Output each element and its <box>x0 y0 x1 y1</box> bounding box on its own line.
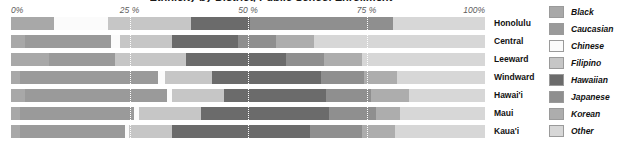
legend-label: Chinese <box>571 41 604 51</box>
bar-segment <box>286 53 324 66</box>
legend-swatch-icon <box>549 6 564 18</box>
bar-segment <box>165 71 212 84</box>
bar-segment <box>201 107 329 120</box>
chart-title: Ethnicity by District, Public School Enr… <box>150 0 410 2</box>
bar-segment <box>376 107 400 120</box>
gridline-50 <box>248 17 249 138</box>
bar-segment <box>11 125 20 138</box>
legend-label: Black <box>571 7 594 17</box>
bar-segment <box>49 53 115 66</box>
bar-segment <box>120 35 172 48</box>
legend: BlackCaucasianChineseFilipinoHawaiianJap… <box>549 3 625 139</box>
bar-segment <box>371 89 409 102</box>
legend-label: Other <box>571 126 594 136</box>
bar-segment <box>11 107 20 120</box>
bar-segment <box>158 71 165 84</box>
bar-segment <box>139 107 201 120</box>
bar-segment <box>191 17 250 30</box>
bar-segment <box>54 17 109 30</box>
legend-label: Caucasian <box>571 24 614 34</box>
legend-swatch-icon <box>549 40 564 52</box>
legend-label: Filipino <box>571 58 601 68</box>
bar-segment <box>20 71 157 84</box>
bar-segment <box>250 17 392 30</box>
bar-segment <box>25 35 110 48</box>
bar-segment <box>172 125 309 138</box>
plot-area: 0% 25 % 50 % 75 % 100% <box>11 16 485 143</box>
legend-swatch-icon <box>549 57 564 69</box>
bar-segment <box>11 89 25 102</box>
row-label: Hawai'i <box>494 89 523 102</box>
stacked-bar-chart: Ethnicity by District, Public School Enr… <box>0 0 625 146</box>
legend-item[interactable]: Hawaiian <box>549 71 625 88</box>
bar-segment <box>409 89 485 102</box>
bar-segment <box>329 107 376 120</box>
bar-segment <box>20 125 124 138</box>
axis-tick-100: 100% <box>463 5 485 15</box>
bar-segment <box>238 35 276 48</box>
row-label: Leeward <box>494 53 529 66</box>
bar-segment <box>11 17 54 30</box>
legend-item[interactable]: Japanese <box>549 88 625 105</box>
bar-segment <box>11 53 49 66</box>
legend-swatch-icon <box>549 74 564 86</box>
legend-item[interactable]: Black <box>549 3 625 20</box>
legend-item[interactable]: Filipino <box>549 54 625 71</box>
bar-segment <box>321 71 364 84</box>
bar-segment <box>224 89 326 102</box>
gridline-75 <box>367 17 368 138</box>
legend-item[interactable]: Caucasian <box>549 20 625 37</box>
legend-swatch-icon <box>549 108 564 120</box>
axis-tick-75: 75 % <box>357 5 376 15</box>
bar-segment <box>172 89 224 102</box>
axis-tick-25: 25 % <box>120 5 139 15</box>
row-label: Windward <box>494 71 535 84</box>
bar-segment <box>115 53 186 66</box>
legend-swatch-icon <box>549 91 564 103</box>
bar-segment <box>25 89 167 102</box>
row-label: Honolulu <box>494 17 531 30</box>
bar-segment <box>276 35 314 48</box>
legend-label: Korean <box>571 109 600 119</box>
legend-item[interactable]: Korean <box>549 105 625 122</box>
axis-tick-0: 0% <box>11 5 23 15</box>
legend-item[interactable]: Other <box>549 122 625 139</box>
bar-segment <box>172 35 238 48</box>
row-label: Kaua'i <box>494 125 519 138</box>
bar-segment <box>393 17 485 30</box>
legend-item[interactable]: Chinese <box>549 37 625 54</box>
bar-segment <box>400 107 485 120</box>
bar-segment <box>326 89 371 102</box>
bar-segment <box>11 35 25 48</box>
bar-segment <box>364 71 397 84</box>
bar-segment <box>395 125 485 138</box>
bar-segment <box>397 71 485 84</box>
row-label: Central <box>494 35 523 48</box>
bar-segment <box>362 53 485 66</box>
gridline-25 <box>130 17 131 138</box>
bar-segment <box>186 53 286 66</box>
bar-segment <box>212 71 321 84</box>
legend-label: Hawaiian <box>571 75 608 85</box>
bar-segment <box>310 125 362 138</box>
bar-segment <box>108 17 191 30</box>
bar-segment <box>129 125 172 138</box>
bar-segment <box>324 53 362 66</box>
legend-label: Japanese <box>571 92 610 102</box>
bar-segment <box>11 71 20 84</box>
axis-tick-50: 50 % <box>238 5 257 15</box>
bar-segment <box>314 35 485 48</box>
bar-segment <box>111 35 120 48</box>
bar-segment <box>20 107 134 120</box>
legend-swatch-icon <box>549 23 564 35</box>
legend-swatch-icon <box>549 125 564 137</box>
row-label: Maui <box>494 107 513 120</box>
